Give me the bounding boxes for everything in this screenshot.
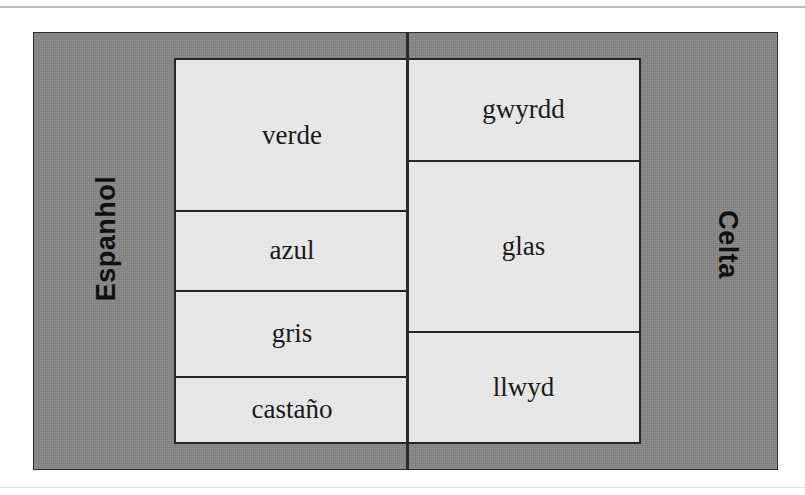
term-label: gris <box>272 318 313 349</box>
scan-rule-top <box>0 6 805 8</box>
diagram-panel: Espanhol Celta verde azul gris castaño g… <box>33 32 778 470</box>
term-cell[interactable]: gwyrdd <box>408 60 639 160</box>
term-label: verde <box>262 120 322 151</box>
term-cell[interactable]: castaño <box>176 376 408 442</box>
term-label: azul <box>270 235 315 266</box>
term-cell[interactable]: verde <box>176 60 408 210</box>
language-label-espanhol: Espanhol <box>91 159 122 319</box>
column-celta: gwyrdd glas llwyd <box>408 58 641 444</box>
term-label: castaño <box>252 394 333 425</box>
term-label: gwyrdd <box>482 94 565 125</box>
term-label: glas <box>502 231 546 262</box>
term-cell[interactable]: glas <box>408 160 639 331</box>
term-cell[interactable]: llwyd <box>408 331 639 442</box>
term-cell[interactable]: azul <box>176 210 408 290</box>
language-label-celta: Celta <box>712 165 743 325</box>
term-label: llwyd <box>493 372 555 403</box>
column-espanhol: verde azul gris castaño <box>174 58 408 444</box>
term-cell[interactable]: gris <box>176 290 408 376</box>
scan-rule-bottom <box>0 487 805 488</box>
language-divider <box>406 33 409 469</box>
